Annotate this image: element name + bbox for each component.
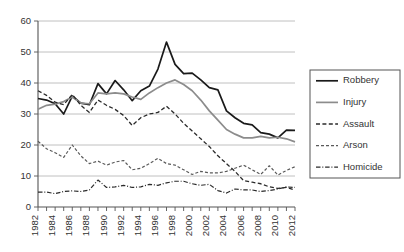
x-tick-marks — [38, 207, 295, 211]
y-tick-label-10: 10 — [20, 170, 31, 181]
y-axis-tick-labels: 0102030405060 — [20, 15, 31, 212]
legend-label-injury: Injury — [343, 96, 366, 107]
x-tick-label-2008: 2008 — [252, 215, 263, 236]
x-tick-label-2004: 2004 — [217, 215, 228, 236]
y-tick-label-0: 0 — [26, 201, 31, 212]
x-tick-label-1988: 1988 — [80, 215, 91, 236]
legend-label-arson: Arson — [343, 139, 368, 150]
x-tick-label-1996: 1996 — [149, 215, 160, 236]
legend-label-homicide: Homicide — [343, 161, 383, 172]
x-tick-label-1986: 1986 — [63, 215, 74, 236]
x-tick-label-1992: 1992 — [115, 215, 126, 236]
x-tick-label-2002: 2002 — [200, 215, 211, 236]
line-chart: 0102030405060 19821984198619881990199219… — [0, 0, 404, 252]
y-tick-label-30: 30 — [20, 108, 31, 119]
series-line-assault — [38, 91, 295, 190]
series-line-homicide — [38, 180, 295, 194]
chart-canvas: 0102030405060 19821984198619881990199219… — [0, 0, 404, 252]
x-tick-label-2010: 2010 — [269, 215, 280, 236]
x-tick-label-2000: 2000 — [183, 215, 194, 236]
series-line-injury — [38, 80, 295, 142]
y-tick-marks — [34, 21, 38, 207]
chart-legend: RobberyInjuryAssaultArsonHomicide — [310, 70, 400, 178]
y-tick-label-40: 40 — [20, 77, 31, 88]
x-tick-label-2006: 2006 — [235, 215, 246, 236]
data-series-group — [38, 42, 295, 194]
y-tick-label-50: 50 — [20, 46, 31, 57]
legend-label-assault: Assault — [343, 118, 375, 129]
x-tick-label-1982: 1982 — [29, 215, 40, 236]
legend-label-robbery: Robbery — [343, 74, 379, 85]
x-axis-tick-labels: 1982198419861988199019921994199619982000… — [29, 215, 297, 236]
x-tick-label-1990: 1990 — [98, 215, 109, 236]
x-tick-label-1998: 1998 — [166, 215, 177, 236]
x-tick-label-1984: 1984 — [46, 215, 57, 236]
series-line-robbery — [38, 42, 295, 138]
y-tick-label-20: 20 — [20, 139, 31, 150]
x-tick-label-2012: 2012 — [286, 215, 297, 236]
y-tick-label-60: 60 — [20, 15, 31, 26]
x-tick-label-1994: 1994 — [132, 215, 143, 236]
series-line-arson — [38, 141, 295, 175]
